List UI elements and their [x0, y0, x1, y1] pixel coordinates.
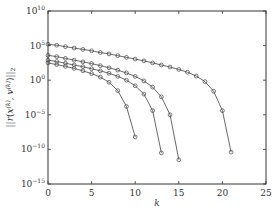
convergence-chart: 051015202510−1510−1010−51001051010k||r(x…	[0, 0, 279, 217]
axes: 051015202510−1510−1010−51001051010k||r(x…	[4, 4, 272, 208]
x-tick-label: 15	[173, 188, 185, 198]
plot-area	[46, 42, 233, 161]
axes-frame	[48, 11, 266, 184]
x-tick-label: 20	[217, 188, 229, 198]
y-tick-label: 105	[30, 39, 45, 51]
y-tick-label: 100	[30, 73, 45, 85]
line-series-4	[46, 61, 137, 139]
y-tick-label: 10−10	[21, 142, 45, 154]
line-series-3	[46, 58, 163, 155]
line-series-1	[46, 42, 233, 154]
y-tick-label: 10−15	[21, 177, 45, 189]
y-tick-label: 10−5	[25, 108, 45, 120]
y-axis-label: ||r(x(k), v(k))||2	[4, 67, 16, 127]
y-tick-label: 1010	[26, 4, 45, 16]
line-series-2	[46, 53, 181, 161]
x-axis-label: k	[154, 198, 159, 208]
x-tick-label: 0	[45, 188, 51, 198]
x-tick-label: 10	[129, 188, 141, 198]
x-tick-label: 5	[89, 188, 95, 198]
x-tick-label: 25	[260, 188, 272, 198]
